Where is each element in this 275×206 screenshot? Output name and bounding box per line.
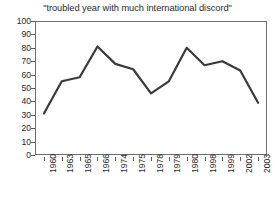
x-tick-mark — [44, 157, 45, 161]
x-tick-label: 2003 — [262, 154, 272, 173]
y-axis: 0102030405060708090100 — [0, 21, 31, 155]
y-tick-label: 70 — [21, 56, 31, 66]
x-tick-label: 1975 — [137, 154, 147, 173]
x-tick-mark — [205, 157, 206, 161]
x-tick-label: 1979 — [172, 154, 182, 173]
x-tick-label: 1998 — [208, 154, 218, 173]
x-tick-mark — [62, 157, 63, 161]
x-tick-mark — [80, 157, 81, 161]
y-tick-label: 40 — [21, 96, 31, 106]
x-tick-mark — [97, 157, 98, 161]
y-tick-label: 80 — [21, 43, 31, 53]
x-tick-label: 1999 — [226, 154, 236, 173]
x-tick-label: 1965 — [83, 154, 93, 173]
y-tick-label: 60 — [21, 70, 31, 80]
x-tick-label: 1980 — [190, 154, 200, 173]
x-tick-label: 1960 — [48, 154, 58, 173]
y-tick-label: 20 — [21, 123, 31, 133]
data-series-line — [35, 21, 267, 155]
series-polyline — [44, 46, 258, 113]
x-tick-mark — [240, 157, 241, 161]
line-chart: "troubled year with much international d… — [0, 0, 275, 206]
y-tick-label: 10 — [21, 137, 31, 147]
x-tick-mark — [133, 157, 134, 161]
y-tick-label: 50 — [21, 83, 31, 93]
y-tick-mark — [31, 155, 35, 156]
x-tick-label: 1974 — [119, 154, 129, 173]
x-tick-label: 1966 — [101, 154, 111, 173]
chart-title: "troubled year with much international d… — [0, 3, 275, 13]
x-tick-mark — [187, 157, 188, 161]
x-tick-mark — [222, 157, 223, 161]
x-axis: 1960196319651966197419751978197919801998… — [35, 157, 267, 206]
y-tick-label: 100 — [17, 16, 31, 26]
x-tick-mark — [169, 157, 170, 161]
y-tick-label: 30 — [21, 110, 31, 120]
y-tick-label: 90 — [21, 29, 31, 39]
x-tick-mark — [115, 157, 116, 161]
x-tick-mark — [258, 157, 259, 161]
x-tick-mark — [151, 157, 152, 161]
x-tick-label: 1978 — [155, 154, 165, 173]
x-tick-label: 2002 — [244, 154, 254, 173]
x-tick-label: 1963 — [65, 154, 75, 173]
